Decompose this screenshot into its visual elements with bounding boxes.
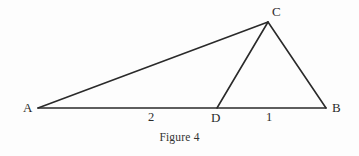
vertex-label-b: B [332,101,341,114]
vertex-label-d: D [211,111,221,124]
segment-length-ad: 2 [148,111,154,124]
segment-CD [217,22,268,108]
figure-caption: Figure 4 [0,131,359,144]
vertex-label-a: A [23,101,33,114]
vertex-label-c: C [272,5,281,18]
segment-CB [268,22,326,108]
geometry-figure: A B C D 2 1 Figure 4 [0,0,359,156]
segment-length-db: 1 [266,111,272,124]
segment-AC [38,22,268,108]
